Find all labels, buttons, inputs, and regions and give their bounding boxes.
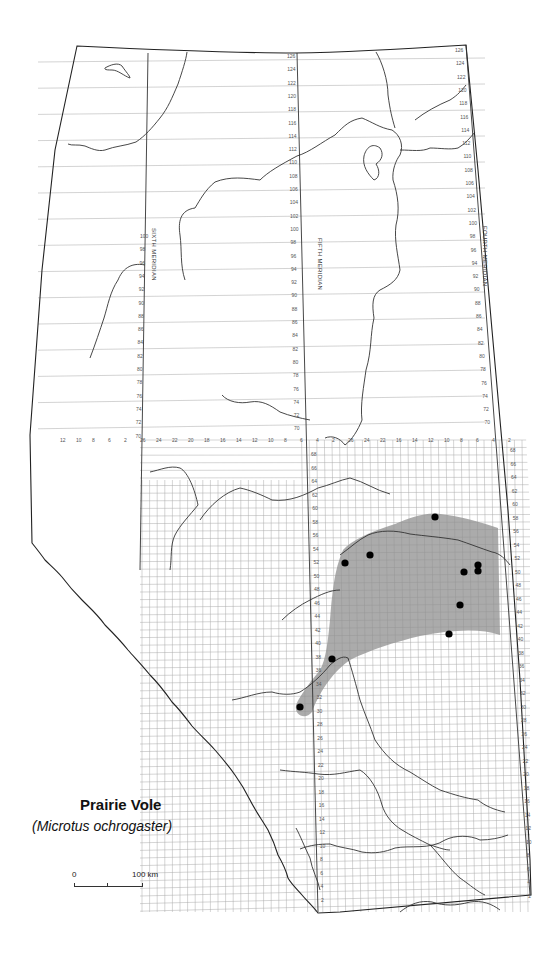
township-label: 6 bbox=[527, 866, 530, 872]
range-label: 12 bbox=[428, 437, 434, 443]
township-label: 106 bbox=[290, 186, 299, 192]
township-label: 56 bbox=[513, 528, 519, 534]
township-label: 24 bbox=[318, 748, 324, 754]
township-label: 38 bbox=[518, 650, 524, 656]
township-label: 22 bbox=[318, 762, 324, 768]
township-label: 90 bbox=[292, 292, 298, 298]
township-label: 58 bbox=[513, 515, 519, 521]
township-label: 12 bbox=[319, 829, 325, 835]
township-label: 40 bbox=[518, 636, 524, 642]
township-label: 36 bbox=[519, 663, 525, 669]
township-label: 74 bbox=[482, 393, 488, 399]
township-label: 118 bbox=[288, 106, 296, 112]
township-label: 96 bbox=[471, 247, 477, 253]
township-label: 116 bbox=[288, 120, 296, 126]
township-label: 36 bbox=[316, 667, 322, 673]
scale-bar: 0 100 km bbox=[72, 870, 182, 890]
range-label: 26 bbox=[348, 437, 354, 443]
township-label: 98 bbox=[470, 233, 476, 239]
township-label: 42 bbox=[315, 627, 321, 633]
oldman-river bbox=[300, 835, 508, 853]
township-label: 78 bbox=[293, 372, 299, 378]
scientific-name: (Microtus ochrogaster) bbox=[32, 818, 172, 834]
township-label: 88 bbox=[292, 306, 298, 312]
township-label: 70 bbox=[484, 419, 490, 425]
range-label: 4 bbox=[316, 437, 319, 443]
fourth-meridian-label: FOURTH MERIDIAN bbox=[482, 226, 488, 286]
township-label: 122 bbox=[457, 74, 466, 80]
range-label: 20 bbox=[188, 437, 194, 443]
township-label: 28 bbox=[521, 717, 527, 723]
township-label: 122 bbox=[288, 80, 297, 86]
range-label: 26 bbox=[140, 437, 146, 443]
athabasca-lake-region bbox=[376, 52, 395, 128]
range-label: 24 bbox=[156, 437, 162, 443]
township-label: 56 bbox=[313, 532, 319, 538]
rivers bbox=[68, 52, 510, 912]
township-label: 16 bbox=[319, 802, 325, 808]
township-label: 2 bbox=[528, 893, 531, 899]
township-label: 2 bbox=[321, 897, 324, 903]
township-label: 126 bbox=[287, 53, 296, 59]
township-label: 90 bbox=[139, 300, 145, 306]
range-label: 8 bbox=[460, 437, 463, 443]
township-label: 104 bbox=[467, 193, 476, 199]
township-label: 80 bbox=[479, 353, 485, 359]
township-label: 76 bbox=[481, 380, 487, 386]
township-label: 72 bbox=[294, 412, 300, 418]
township-label: 88 bbox=[475, 300, 481, 306]
township-label: 14 bbox=[525, 812, 531, 818]
township-label: 62 bbox=[512, 488, 518, 494]
township-label: 108 bbox=[464, 167, 473, 173]
record-dot bbox=[474, 567, 481, 574]
township-label: 48 bbox=[314, 586, 320, 592]
range-label: 18 bbox=[204, 437, 210, 443]
township-label: 58 bbox=[313, 519, 319, 525]
township-label: 54 bbox=[514, 542, 520, 548]
range-label: 2 bbox=[508, 437, 511, 443]
record-dot bbox=[431, 513, 438, 520]
township-label: 110 bbox=[463, 153, 471, 159]
township-label: 124 bbox=[287, 66, 296, 72]
township-label: 28 bbox=[317, 721, 323, 727]
township-label: 10 bbox=[320, 843, 326, 849]
township-label: 94 bbox=[291, 266, 297, 272]
township-label: 100 bbox=[290, 226, 299, 232]
township-label: 84 bbox=[138, 339, 144, 345]
township-label: 14 bbox=[319, 816, 325, 822]
township-label: 38 bbox=[316, 654, 322, 660]
fifth-meridian-label: FIFTH MERIDIAN bbox=[317, 238, 323, 290]
township-label: 92 bbox=[139, 286, 145, 292]
record-dot bbox=[445, 630, 452, 637]
township-label: 44 bbox=[315, 613, 321, 619]
township-label: 50 bbox=[314, 573, 320, 579]
township-label: 80 bbox=[137, 366, 143, 372]
township-label: 70 bbox=[294, 425, 300, 431]
township-label: 100 bbox=[469, 220, 478, 226]
township-label: 52 bbox=[514, 555, 520, 561]
township-label: 66 bbox=[511, 461, 517, 467]
township-label: 90 bbox=[474, 286, 480, 292]
township-label: 108 bbox=[289, 173, 298, 179]
range-labels-row: 1210862262422201816141210864226242216141… bbox=[60, 437, 511, 443]
scale-bar-line bbox=[74, 883, 143, 887]
township-label: 80 bbox=[293, 359, 299, 365]
township-label: 8 bbox=[320, 856, 323, 862]
north-saskatchewan-main bbox=[200, 478, 390, 520]
range-label: 14 bbox=[236, 437, 242, 443]
township-label: 98 bbox=[291, 239, 297, 245]
township-label: 18 bbox=[524, 785, 530, 791]
township-label: 110 bbox=[289, 159, 297, 165]
township-label: 76 bbox=[293, 386, 299, 392]
township-label: 40 bbox=[315, 640, 321, 646]
range-label: 12 bbox=[252, 437, 258, 443]
range-label: 10 bbox=[76, 437, 82, 443]
township-label: 86 bbox=[292, 319, 298, 325]
range-label: 2 bbox=[332, 437, 335, 443]
township-label: 84 bbox=[477, 326, 483, 332]
range-label: 8 bbox=[284, 437, 287, 443]
township-label: 94 bbox=[472, 260, 478, 266]
peace-river bbox=[68, 52, 187, 151]
township-label: 120 bbox=[288, 93, 297, 99]
range-label: 6 bbox=[300, 437, 303, 443]
